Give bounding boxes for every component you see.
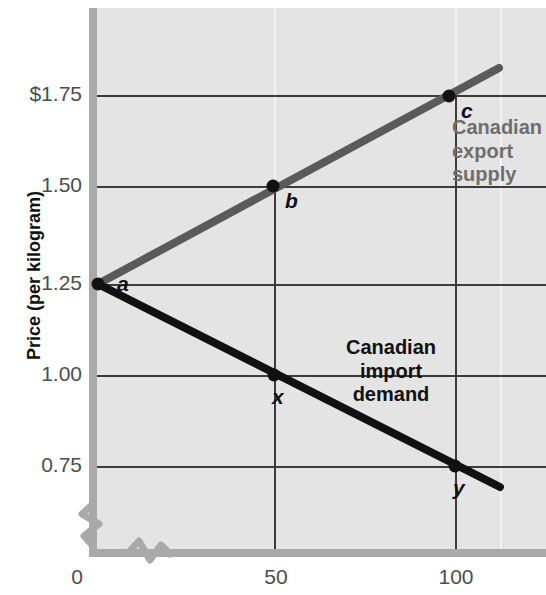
y-tick-075: 0.75: [41, 453, 82, 477]
gridline-125: [97, 284, 546, 286]
y-tick-125: 1.25: [41, 271, 82, 295]
point-label-b: b: [285, 189, 298, 213]
x-tick-0: 0: [71, 565, 83, 589]
gridline-175: [97, 95, 546, 97]
data-point-c: [443, 90, 456, 103]
series-label-import-demand: Canadian import demand: [330, 336, 452, 407]
plot-area-background: [97, 8, 546, 557]
vertical-gridline-right-light: [500, 8, 502, 557]
gridline-100: [97, 375, 546, 377]
series-label-export-supply: Canadian export supply: [452, 116, 542, 187]
y-axis-title: Price (per kilogram): [24, 146, 45, 406]
point-label-y: y: [453, 476, 465, 500]
gridline-075: [97, 466, 546, 468]
x-tick-50: 50: [264, 565, 287, 589]
economics-chart: a b c x y Canadian export supply Canadia…: [0, 0, 546, 595]
point-label-x: x: [272, 385, 284, 409]
x-tick-100: 100: [438, 565, 473, 589]
point-label-a: a: [117, 272, 129, 296]
data-point-a: [92, 278, 105, 291]
x-axis-line: [89, 549, 546, 557]
y-tick-175: $1.75: [29, 82, 82, 106]
data-point-x: [268, 369, 281, 382]
data-point-b: [267, 180, 280, 193]
y-tick-150: 1.50: [41, 173, 82, 197]
data-point-y: [449, 460, 462, 473]
y-tick-100: 1.00: [41, 362, 82, 386]
